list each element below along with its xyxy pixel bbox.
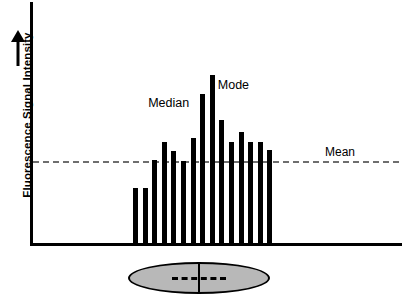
mean-label: Mean (325, 145, 355, 159)
y-axis-label: Fluorescence Signal Intensity (16, 0, 38, 230)
bar-2 (143, 188, 148, 244)
x-axis-line (30, 243, 402, 246)
bar-13 (248, 142, 253, 244)
bar-5 (171, 151, 176, 244)
nucleus-vertical-tick (198, 264, 200, 292)
bar-7 (191, 138, 196, 244)
bar-10 (219, 120, 224, 244)
bar-4 (162, 142, 167, 244)
bar-1 (133, 188, 138, 244)
bar-3 (152, 160, 157, 244)
mean-reference-line (33, 161, 399, 163)
bar-15 (267, 150, 272, 244)
bar-12 (239, 132, 244, 244)
bar-8 (200, 94, 205, 244)
bar-6 (181, 161, 186, 244)
bar-11 (229, 142, 234, 244)
fluorescence-intensity-chart: Fluorescence Signal Intensity Mean Media… (0, 0, 402, 301)
bar-9 (210, 75, 215, 244)
mode-label: Mode (218, 78, 249, 92)
median-label: Median (148, 96, 189, 110)
bar-14 (258, 142, 263, 244)
y-axis-line (30, 2, 33, 245)
